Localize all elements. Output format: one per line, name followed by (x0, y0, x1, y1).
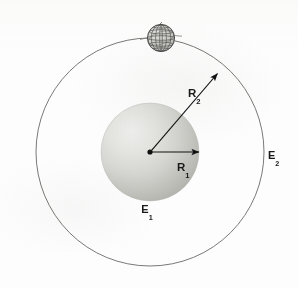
label-outer-radius: R2 (188, 87, 201, 106)
wireframe-globe-icon (140, 22, 182, 51)
label-outer-surface: E2 (268, 149, 279, 168)
label-inner-surface-base: E (141, 203, 148, 215)
label-outer-surface-base: E (268, 149, 275, 161)
label-inner-surface-subscript: 1 (149, 213, 153, 222)
label-outer-surface-subscript: 2 (275, 159, 279, 168)
physics-diagram-figure: R1 R2 E1 E2 (0, 0, 298, 288)
label-inner-surface: E1 (141, 203, 152, 222)
label-inner-radius-subscript: 1 (185, 171, 189, 180)
label-outer-radius-subscript: 2 (196, 97, 200, 106)
diagram-canvas: R1 R2 E1 E2 (0, 0, 298, 288)
